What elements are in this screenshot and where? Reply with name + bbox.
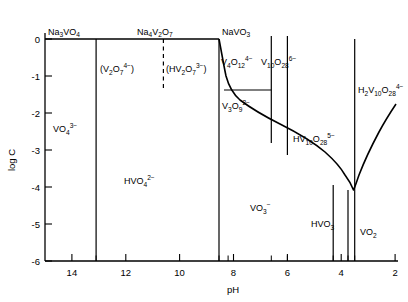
- y-tick-label: -3: [32, 145, 40, 156]
- x-tick-label: 12: [121, 267, 132, 278]
- x-tick-label: 4: [339, 267, 344, 278]
- vanadium-speciation-diagram: 0 -1 -2 -3 -4 -5 -6 log C 14 12 10 8 6 4: [0, 0, 408, 302]
- x-tick-label: 14: [67, 267, 78, 278]
- x-tick-label: 2: [392, 267, 397, 278]
- y-tick-label: 0: [35, 34, 40, 45]
- y-tick-label: -4: [32, 182, 40, 193]
- label-na3vo4: Na3VO4: [48, 27, 80, 38]
- label-navo3: NaVO3: [222, 27, 251, 38]
- x-tick-label: 10: [174, 267, 185, 278]
- y-tick-label: -1: [32, 71, 40, 82]
- chart-svg: 0 -1 -2 -3 -4 -5 -6 log C 14 12 10 8 6 4: [0, 0, 408, 302]
- label-na4v2o7: Na4V2O7: [137, 27, 173, 38]
- y-axis-title: log C: [6, 149, 17, 171]
- y-tick-label: -2: [32, 108, 40, 119]
- x-tick-label: 8: [231, 267, 236, 278]
- x-tick-label: 6: [285, 267, 290, 278]
- chart-background: [0, 0, 408, 302]
- y-tick-label: -5: [32, 219, 40, 230]
- y-tick-label: -6: [32, 256, 40, 267]
- x-axis-title: pH: [227, 284, 239, 295]
